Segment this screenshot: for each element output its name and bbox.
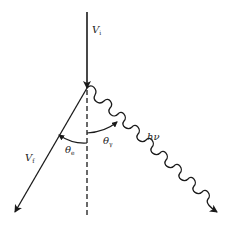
outgoing-electron-arrow: [15, 88, 87, 212]
photon-angle-label: θγ: [103, 136, 113, 147]
photon-wavy-arrow: [87, 86, 217, 212]
photon-energy-label: hν: [147, 132, 160, 142]
incoming-electron-label: Vi: [92, 25, 101, 36]
photon-angle-arc: [87, 122, 117, 133]
outgoing-electron-label: Vf: [25, 153, 34, 164]
scattering-diagram: [0, 0, 228, 226]
electron-angle-label: θe: [65, 145, 75, 156]
electron-angle-arc: [59, 135, 87, 143]
